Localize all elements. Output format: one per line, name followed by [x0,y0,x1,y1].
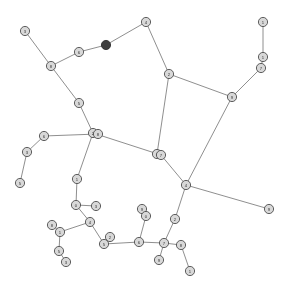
graph-edge [51,66,79,103]
graph-node[interactable]: 0 [71,200,80,209]
graph-edge [146,22,169,74]
graph-node[interactable]: 0 [141,211,150,220]
graph-node[interactable]: 8 [93,129,102,138]
graph-node-highlighted-circle[interactable] [101,40,110,49]
graph-node[interactable]: 5 [15,178,24,187]
graph-node[interactable]: 5 [74,98,83,107]
graph-edge [186,185,269,209]
graph-node-circle[interactable] [22,147,31,156]
graph-node-circle[interactable] [20,26,29,35]
graph-node-circle[interactable] [72,174,81,183]
graph-node-circle[interactable] [15,178,24,187]
graph-node-circle[interactable] [227,92,236,101]
graph-node[interactable]: 2 [170,214,179,223]
graph-node[interactable]: 6 [74,47,83,56]
graph-node[interactable]: 5 [99,239,108,248]
graph-svg: 38604211795286351674920348153256907891 [0,0,286,296]
graph-edge [93,133,161,155]
graph-node[interactable]: 9 [264,204,273,213]
graph-node-circle[interactable] [156,150,165,159]
graph-node[interactable]: 7 [256,63,265,72]
graph-node[interactable]: 7 [159,238,168,247]
graph-node[interactable]: 6 [39,131,48,140]
graph-node-circle[interactable] [74,47,83,56]
graph-node[interactable]: 8 [46,61,55,70]
graph-node-circle[interactable] [47,220,56,229]
graph-node[interactable]: 6 [134,237,143,246]
graph-node[interactable]: 0 [101,40,110,49]
graph-edge [186,97,232,185]
graph-node-circle[interactable] [258,52,267,61]
graph-node[interactable]: 8 [47,220,56,229]
graph-node-circle[interactable] [99,239,108,248]
graph-node-circle[interactable] [185,266,194,275]
graph-edge [232,68,261,97]
graph-edge [169,74,232,97]
graph-node[interactable]: 1 [72,174,81,183]
graph-edge [175,185,186,219]
graph-node-circle[interactable] [61,257,70,266]
graph-node-circle[interactable] [85,217,94,226]
graph-node-circle[interactable] [134,237,143,246]
graph-node-circle[interactable] [141,211,150,220]
graph-edge [25,31,51,66]
graph-node-circle[interactable] [256,63,265,72]
graph-node-circle[interactable] [258,17,267,26]
graph-node[interactable]: 5 [54,246,63,255]
graph-node[interactable]: 4 [181,180,190,189]
node-layer: 38604211795286351674920348153256907891 [15,17,273,275]
graph-edge [104,242,139,244]
graph-node[interactable]: 9 [154,255,163,264]
graph-node[interactable]: 3 [22,147,31,156]
graph-edge [106,22,146,45]
network-graph-figure: 38604211795286351674920348153256907891 [0,0,286,296]
graph-node[interactable]: 1 [258,52,267,61]
graph-node-circle[interactable] [176,240,185,249]
graph-node[interactable]: 1 [185,266,194,275]
graph-node-circle[interactable] [181,180,190,189]
graph-node[interactable]: 7 [156,150,165,159]
graph-node[interactable]: 2 [164,69,173,78]
graph-node-circle[interactable] [54,246,63,255]
graph-node-circle[interactable] [91,201,100,210]
graph-node-circle[interactable] [264,204,273,213]
graph-node-circle[interactable] [170,214,179,223]
graph-node[interactable]: 3 [61,257,70,266]
graph-node[interactable]: 9 [227,92,236,101]
graph-node[interactable]: 3 [91,201,100,210]
graph-node-circle[interactable] [74,98,83,107]
graph-node[interactable]: 4 [85,217,94,226]
graph-node-circle[interactable] [141,17,150,26]
graph-node-circle[interactable] [46,61,55,70]
graph-node-circle[interactable] [159,238,168,247]
graph-node-circle[interactable] [164,69,173,78]
graph-node-circle[interactable] [93,129,102,138]
graph-edge [157,74,169,154]
graph-edge [161,155,186,185]
graph-node[interactable]: 8 [176,240,185,249]
graph-node[interactable]: 1 [258,17,267,26]
graph-node-circle[interactable] [55,227,64,236]
graph-node[interactable]: 1 [55,227,64,236]
graph-node[interactable]: 4 [141,17,150,26]
graph-node[interactable]: 3 [20,26,29,35]
graph-node-circle[interactable] [39,131,48,140]
graph-node-circle[interactable] [71,200,80,209]
graph-edge [77,133,93,179]
graph-node-circle[interactable] [154,255,163,264]
